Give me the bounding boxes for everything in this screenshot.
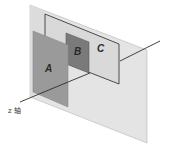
plane-b-label: B <box>74 46 81 57</box>
plane-a-label: A <box>44 63 52 74</box>
z-axis-label: z 轴 <box>8 106 21 115</box>
plane-c-label: C <box>97 43 105 54</box>
plane-diagram: A B C z 轴 <box>0 0 172 153</box>
